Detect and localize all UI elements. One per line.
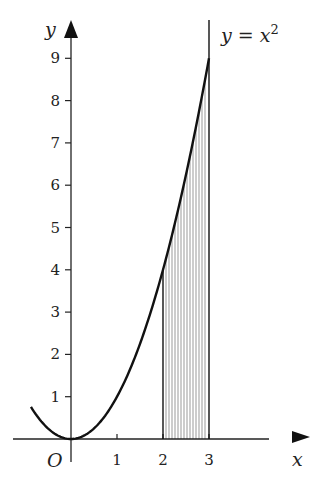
- y-tick-label: 1: [50, 388, 60, 406]
- y-tick-label: 3: [50, 303, 60, 321]
- y-tick-label: 7: [50, 134, 60, 152]
- x-tick-label: 1: [112, 451, 122, 469]
- y-tick-label: 6: [50, 176, 60, 194]
- parabola-curve: [31, 58, 209, 439]
- y-tick-label: 8: [50, 92, 60, 110]
- chart: 123456789 123 y = x2 y x O: [0, 0, 331, 496]
- x-axis-arrow-icon: [292, 431, 310, 443]
- y-axis-arrow-icon: [64, 20, 78, 38]
- y-tick-label: 2: [50, 345, 60, 363]
- x-tick-label: 3: [204, 451, 214, 469]
- y-tick-label: 5: [50, 219, 60, 237]
- curve-label: y = x2: [220, 22, 279, 46]
- y-ticks: 123456789: [50, 49, 71, 405]
- y-tick-label: 9: [50, 49, 60, 67]
- x-axis-label: x: [292, 448, 303, 470]
- y-axis-label: y: [44, 18, 56, 40]
- x-tick-label: 2: [158, 451, 168, 469]
- y-tick-label: 4: [50, 261, 60, 279]
- shaded-area-hatching: [166, 80, 205, 439]
- origin-label: O: [47, 449, 63, 471]
